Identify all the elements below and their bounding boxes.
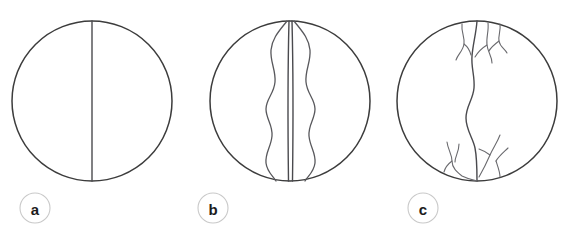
panel-c bbox=[397, 21, 557, 181]
label-badge-b: b bbox=[198, 193, 228, 223]
figure-canvas: a b c bbox=[0, 0, 573, 235]
label-badge-a-text: a bbox=[31, 201, 40, 218]
panel-b-circle-outline bbox=[210, 21, 370, 181]
label-badge-c: c bbox=[408, 193, 438, 223]
label-badge-a: a bbox=[20, 193, 50, 223]
label-badge-b-text: b bbox=[208, 201, 217, 218]
label-badge-c-text: c bbox=[419, 201, 427, 218]
panel-b bbox=[210, 21, 370, 181]
figure-root: a b c bbox=[0, 0, 573, 235]
panel-c-circle-outline bbox=[397, 21, 557, 181]
panel-a bbox=[12, 21, 172, 181]
